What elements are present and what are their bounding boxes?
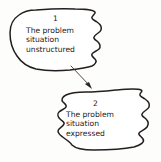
node-1-number: 1 — [53, 14, 58, 23]
node-2-label-line-3: expressed — [66, 129, 114, 138]
node-1-label-line-1: The problem — [26, 26, 75, 35]
node-2-label-line-2: situation — [66, 119, 114, 128]
ssm-diagram: 1 The problem situation unstructured 2 T… — [0, 0, 161, 162]
node-1-label-line-2: situation — [26, 35, 75, 44]
node-2-label: The problem situation expressed — [66, 110, 114, 138]
node-2-label-line-1: The problem — [66, 110, 114, 119]
node-1-label: The problem situation unstructured — [26, 26, 75, 54]
connector-arrow-head — [85, 82, 92, 89]
node-2-number: 2 — [93, 99, 98, 108]
node-1-label-line-3: unstructured — [26, 45, 75, 54]
